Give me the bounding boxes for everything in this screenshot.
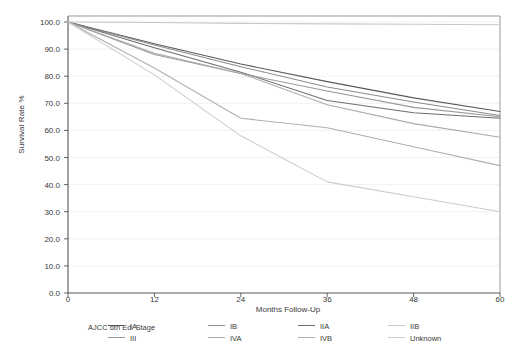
- legend-item-unknown[interactable]: Unknown: [388, 333, 441, 343]
- series-line-iib: [68, 22, 500, 25]
- legend-item-iii[interactable]: III: [108, 333, 136, 343]
- legend-item-ib[interactable]: IB: [208, 321, 237, 331]
- x-axis-tick: 0: [48, 295, 88, 304]
- legend-item-iia[interactable]: IIA: [298, 321, 329, 331]
- series-line-ia: [68, 22, 500, 111]
- legend-label: IVA: [230, 334, 242, 343]
- legend-label: IVB: [320, 334, 332, 343]
- legend-swatch-iii: [108, 337, 125, 338]
- x-axis-title: Months Follow-Up: [68, 305, 508, 314]
- x-axis-tick: 12: [134, 295, 174, 304]
- series-line-iii: [68, 22, 500, 117]
- survival-chart-figure: Survival Rate % 0.010.020.030.040.050.06…: [0, 0, 513, 353]
- legend-label: IB: [230, 322, 237, 331]
- series-line-unknown: [68, 22, 500, 212]
- legend-swatch-ivb: [298, 337, 315, 338]
- x-axis-tick: 36: [307, 295, 347, 304]
- legend-swatch-ia: [108, 325, 125, 326]
- series-line-ivb: [68, 22, 500, 166]
- legend-label: III: [130, 334, 136, 343]
- legend-swatch-unknown: [388, 337, 405, 338]
- x-axis-tick: 48: [394, 295, 434, 304]
- legend-label: IIB: [410, 322, 419, 331]
- legend-swatch-iia: [298, 325, 315, 326]
- legend-label: IA: [130, 322, 137, 331]
- chart-legend: AJCC 6th Ed. Stage IAIBIIAIIBIIIIVAIVBUn…: [88, 320, 508, 348]
- legend-label: IIA: [320, 322, 329, 331]
- legend-swatch-ib: [208, 325, 225, 326]
- legend-item-iib[interactable]: IIB: [388, 321, 419, 331]
- x-axis-tick: 24: [221, 295, 261, 304]
- series-line-iia: [68, 22, 500, 118]
- legend-label: Unknown: [410, 334, 441, 343]
- legend-item-iva[interactable]: IVA: [208, 333, 242, 343]
- legend-swatch-iva: [208, 337, 225, 338]
- x-axis-tick: 60: [480, 295, 513, 304]
- legend-item-ivb[interactable]: IVB: [298, 333, 332, 343]
- legend-swatch-iib: [388, 325, 405, 326]
- legend-item-ia[interactable]: IA: [108, 321, 137, 331]
